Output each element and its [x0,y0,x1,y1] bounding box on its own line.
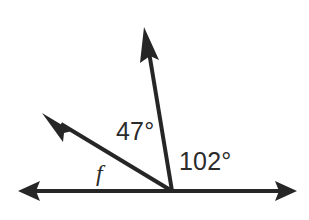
angle-label-47: 47° [116,119,154,144]
angle-label-102: 102° [179,149,232,174]
ray-label-f: f [96,161,103,185]
geometry-canvas [0,0,309,220]
angle-diagram: 47° 102° f [0,0,309,220]
